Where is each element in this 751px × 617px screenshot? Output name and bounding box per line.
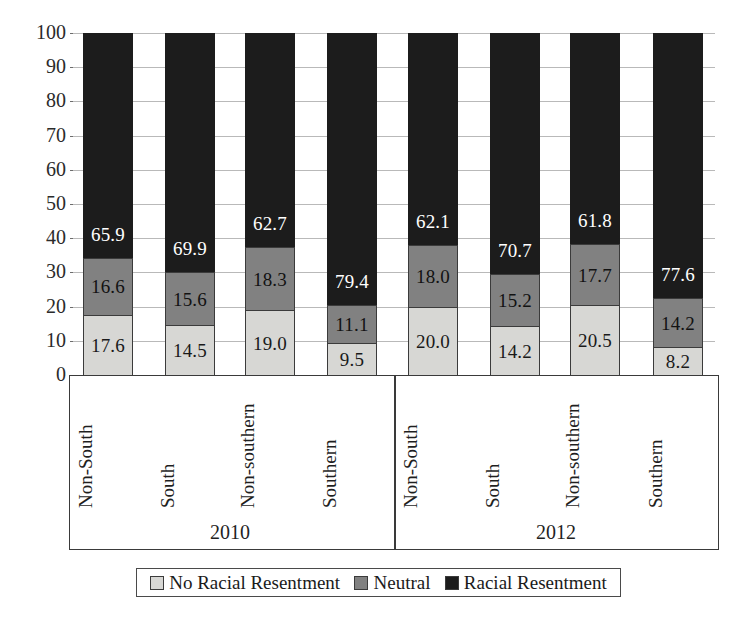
legend-swatch-icon [354,576,368,590]
bar-value-label: 69.9 [173,239,207,258]
bar-segment-light[interactable]: 20.0 [408,307,458,375]
bar-segment-dark[interactable]: 79.4 [327,33,377,305]
bar-segment-mid[interactable]: 16.6 [83,258,133,315]
y-axis-tick-label: 80 [14,90,66,110]
y-axis-tick-label: 10 [14,330,66,350]
bar-segment-light[interactable]: 17.6 [83,315,133,375]
bar-value-label: 62.7 [253,214,287,233]
bar-value-label: 61.8 [578,211,612,230]
stacked-bar-chart: 1009080706050403020100 65.916.617.669.91… [0,0,751,617]
bar-value-label: 20.0 [416,332,450,351]
stacked-bar[interactable]: 69.915.614.5 [165,33,215,375]
bar-segment-light[interactable]: 19.0 [245,310,295,375]
category-axis-box: Non-SouthSouthNon-southernSouthernNon-So… [69,375,719,550]
bar-segment-light[interactable]: 8.2 [653,347,703,375]
bar-value-label: 15.6 [173,290,207,309]
bar-segment-dark[interactable]: 70.7 [490,33,540,275]
y-axis-tick-label: 20 [14,296,66,316]
category-label-southern-7: Southern [646,380,751,508]
legend-swatch-icon [150,576,164,590]
bar-segment-dark[interactable]: 62.1 [408,33,458,245]
bar-segment-mid[interactable]: 18.0 [408,245,458,307]
bar-value-label: 14.2 [661,314,695,333]
stacked-bar[interactable]: 62.718.319.0 [245,33,295,375]
stacked-bar[interactable]: 79.411.19.5 [327,33,377,375]
bar-value-label: 15.2 [498,291,532,310]
bar-value-label: 79.4 [335,272,369,291]
y-axis-tick-label: 90 [14,56,66,76]
bar-value-label: 17.7 [578,266,612,285]
y-axis-tick-label: 50 [14,193,66,213]
plot-area: 65.916.617.669.915.614.562.718.319.079.4… [83,33,705,375]
bar-value-label: 14.5 [173,341,207,360]
bar-value-label: 20.5 [578,331,612,350]
bar-value-label: 14.2 [498,342,532,361]
stacked-bar[interactable]: 62.118.020.0 [408,33,458,375]
bar-value-label: 18.0 [416,267,450,286]
bar-value-label: 9.5 [340,350,364,369]
legend-label: Neutral [373,573,430,592]
stacked-bar[interactable]: 77.614.28.2 [653,33,703,375]
bar-value-label: 8.2 [666,352,690,371]
legend-item-no-racial-resentment[interactable]: No Racial Resentment [150,573,340,592]
y-axis-tick-label: 30 [14,261,66,281]
bar-value-label: 77.6 [661,265,695,284]
bar-segment-mid[interactable]: 15.2 [490,274,540,326]
bar-segment-light[interactable]: 14.5 [165,325,215,375]
bar-value-label: 65.9 [91,225,125,244]
legend-item-racial-resentment[interactable]: Racial Resentment [445,573,607,592]
bar-value-label: 70.7 [498,241,532,260]
y-axis-tick-label: 40 [14,227,66,247]
y-axis-tick-label: 0 [14,364,66,384]
legend-label: Racial Resentment [464,573,607,592]
bar-value-label: 18.3 [253,270,287,289]
bar-value-label: 16.6 [91,277,125,296]
bar-segment-light[interactable]: 9.5 [327,343,377,375]
group-label-2010: 2010 [70,521,390,543]
bar-segment-dark[interactable]: 61.8 [570,33,620,244]
legend-label: No Racial Resentment [169,573,340,592]
y-axis-tick-label: 70 [14,125,66,145]
y-axis-tick-label: 100 [14,22,66,42]
bar-segment-dark[interactable]: 65.9 [83,33,133,258]
bar-segment-mid[interactable]: 11.1 [327,305,377,343]
stacked-bar[interactable]: 70.715.214.2 [490,33,540,375]
group-label-2012: 2012 [396,521,716,543]
bar-value-label: 19.0 [253,334,287,353]
legend-swatch-icon [445,576,459,590]
bar-segment-mid[interactable]: 17.7 [570,244,620,305]
legend-item-neutral[interactable]: Neutral [354,573,430,592]
bar-segment-mid[interactable]: 15.6 [165,272,215,325]
bar-segment-dark[interactable]: 62.7 [245,33,295,247]
bar-segment-light[interactable]: 20.5 [570,305,620,375]
bar-segment-dark[interactable]: 69.9 [165,33,215,272]
bar-segment-mid[interactable]: 14.2 [653,298,703,347]
bar-segment-mid[interactable]: 18.3 [245,247,295,310]
stacked-bar[interactable]: 65.916.617.6 [83,33,133,375]
stacked-bar[interactable]: 61.817.720.5 [570,33,620,375]
bar-value-label: 17.6 [91,336,125,355]
bar-value-label: 62.1 [416,212,450,231]
bar-segment-light[interactable]: 14.2 [490,326,540,375]
y-axis-tick-label: 60 [14,159,66,179]
bar-value-label: 11.1 [335,315,368,334]
bar-segment-dark[interactable]: 77.6 [653,33,703,298]
legend: No Racial Resentment Neutral Racial Rese… [136,568,621,597]
